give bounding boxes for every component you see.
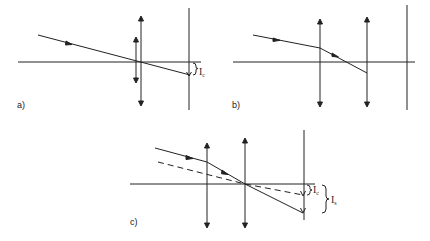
panel-a (18, 8, 201, 110)
panel-c (130, 130, 329, 228)
light-ray (253, 35, 367, 73)
label-ic-a: Ic (199, 66, 205, 78)
brace-ic (307, 185, 312, 195)
panel-label-b: b) (232, 100, 240, 110)
dashed-ray (158, 162, 306, 196)
light-ray (38, 35, 192, 76)
lens-first (318, 19, 323, 107)
optics-diagram: Ic a) b) (0, 0, 430, 241)
label-ic-c: Ic (313, 184, 319, 196)
brace-ic (193, 63, 198, 75)
label-is-c: Is (331, 194, 337, 206)
panel-label-a: a) (17, 100, 25, 110)
panel-label-c: c) (130, 217, 138, 227)
panel-b (233, 5, 415, 110)
lens-tall (139, 16, 144, 106)
lens-first (205, 143, 210, 228)
brace-is (322, 185, 329, 213)
